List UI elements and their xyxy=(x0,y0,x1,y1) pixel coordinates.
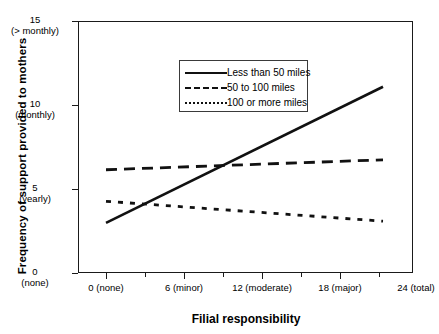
x-tick-21 xyxy=(379,273,380,277)
y-tick-label-10: 10 (monthly) xyxy=(2,98,68,120)
legend-label-100-or-more-miles: 100 or more miles xyxy=(227,97,307,108)
y-tick-label-15: 15 (> monthly) xyxy=(2,14,68,36)
y-tick-label-0: 0 (none) xyxy=(2,266,68,288)
legend-swatch-solid-icon xyxy=(185,68,227,78)
legend-swatch-dashed-icon xyxy=(185,83,227,93)
x-tick-0 xyxy=(106,273,107,279)
y-tick-descriptor-10: (monthly) xyxy=(2,109,68,120)
x-tick-3 xyxy=(145,273,146,277)
x-tick-15 xyxy=(301,273,302,277)
series-line-100-or-more-miles xyxy=(106,201,383,221)
y-tick-descriptor-0: (none) xyxy=(2,277,68,288)
x-axis-title: Filial responsibility xyxy=(78,312,414,326)
y-axis-title: Frequency of support provided to mothers xyxy=(16,6,28,306)
y-tick-value-15: 15 xyxy=(2,14,68,25)
y-tick-label-5: 5 (yearly) xyxy=(2,182,68,204)
legend-item-100-or-more-miles: 100 or more miles xyxy=(185,95,303,110)
x-tick-label-0: 0 (none) xyxy=(61,282,151,293)
y-tick-descriptor-5: (yearly) xyxy=(2,193,68,204)
series-line-50-to-100-miles xyxy=(106,160,383,170)
legend-item-less-than-50-miles: Less than 50 miles xyxy=(185,65,303,80)
x-tick-label-24: 24 (total) xyxy=(371,282,439,293)
legend-swatch-dotted-icon xyxy=(185,98,227,108)
plot-area: Less than 50 miles 50 to 100 miles 100 o… xyxy=(78,21,413,273)
y-tick-value-0: 0 xyxy=(2,266,68,277)
x-tick-9 xyxy=(223,273,224,277)
x-tick-label-12: 12 (moderate) xyxy=(217,282,307,293)
x-tick-12 xyxy=(262,273,263,279)
legend-label-less-than-50-miles: Less than 50 miles xyxy=(227,67,310,78)
x-tick-label-6: 6 (minor) xyxy=(139,282,229,293)
chart-legend: Less than 50 miles 50 to 100 miles 100 o… xyxy=(179,60,308,112)
x-tick-18 xyxy=(340,273,341,279)
y-tick-value-10: 10 xyxy=(2,98,68,109)
y-tick-0 xyxy=(72,273,78,274)
y-tick-value-5: 5 xyxy=(2,182,68,193)
legend-item-50-to-100-miles: 50 to 100 miles xyxy=(185,80,303,95)
legend-label-50-to-100-miles: 50 to 100 miles xyxy=(227,82,295,93)
x-tick-6 xyxy=(184,273,185,279)
y-tick-descriptor-15: (> monthly) xyxy=(2,25,68,36)
